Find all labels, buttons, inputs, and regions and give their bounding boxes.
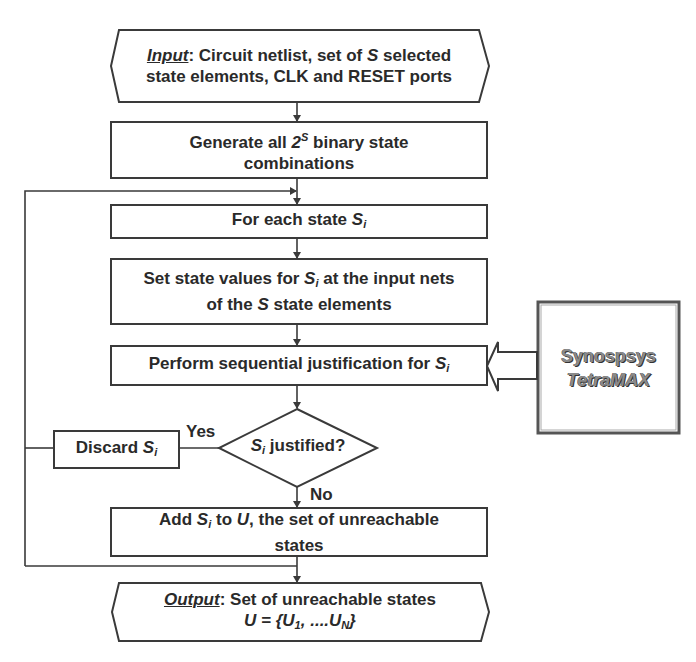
output-label: Output xyxy=(164,590,220,609)
output-node: Output: Set of unreachable states U = {U… xyxy=(119,583,481,641)
edge-label-yes: Yes xyxy=(186,422,215,442)
for-each-node: For each state Si xyxy=(111,205,487,238)
input-node: Input: Circuit netlist, set of S selecte… xyxy=(119,30,479,102)
tool-node: Synospsys TetraMAX xyxy=(538,302,679,433)
block-arrow-icon xyxy=(487,342,537,391)
set-state-node: Set state values for Si at the input net… xyxy=(111,259,487,324)
decision-node: Si justified? xyxy=(219,409,377,487)
edge-label-no: No xyxy=(310,485,333,505)
tool-vendor: Synospsys xyxy=(561,344,656,368)
input-label: Input xyxy=(147,46,189,65)
add-node: Add Si to U, the set of unreachable stat… xyxy=(111,508,487,556)
generate-node: Generate all 2S binary state combination… xyxy=(111,122,487,178)
discard-node: Discard Si xyxy=(54,431,179,468)
tool-name: TetraMAX xyxy=(567,368,650,392)
perform-node: Perform sequential justification for Si xyxy=(111,346,487,385)
